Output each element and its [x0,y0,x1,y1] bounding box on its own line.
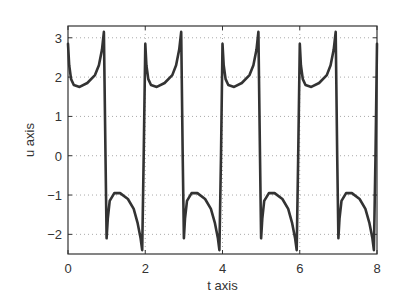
series-line [68,32,377,250]
y-tick-label: 3 [55,31,62,46]
x-tick-label: 2 [142,261,149,276]
y-axis-label: u axis [22,123,37,157]
x-axis-label: t axis [207,278,238,293]
x-tick-label: 8 [373,261,380,276]
y-tick-label: 0 [55,149,62,164]
line-chart: 02468 −2−10123 t axis u axis [0,0,398,303]
x-tick-label: 6 [296,261,303,276]
x-tick-label: 0 [64,261,71,276]
y-tick-label: 1 [55,109,62,124]
x-tick-label: 4 [219,261,226,276]
data-series [68,32,377,250]
y-tick-label: −1 [47,188,62,203]
y-tick-label: −2 [47,227,62,242]
y-tick-label: 2 [55,70,62,85]
